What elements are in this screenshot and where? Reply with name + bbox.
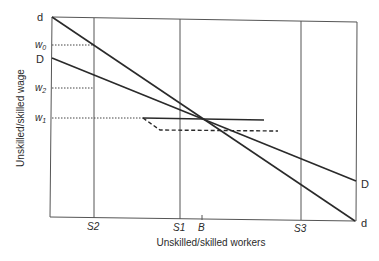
label-b: B: [198, 222, 205, 233]
label-s2: S2: [87, 221, 100, 232]
x-axis-title: Unskilled/skilled workers: [157, 237, 266, 248]
label-d-right: d: [361, 217, 367, 229]
label-w1: w1: [35, 112, 46, 124]
label-D-right: D: [361, 178, 369, 190]
label-s1: S1: [173, 222, 185, 233]
label-d-top: d: [37, 11, 43, 23]
kinked-solid-line: [143, 118, 264, 120]
label-w0: w0: [35, 39, 46, 51]
label-w2: w2: [35, 82, 46, 94]
y-axis-title: Unskilled/skilled wage: [15, 69, 26, 167]
wage-diagram: d w0 D w2 w1 D d S2 S1 B S3 Unskilled/sk…: [0, 0, 379, 261]
label-s3: S3: [294, 223, 307, 234]
label-D-left: D: [36, 53, 44, 65]
